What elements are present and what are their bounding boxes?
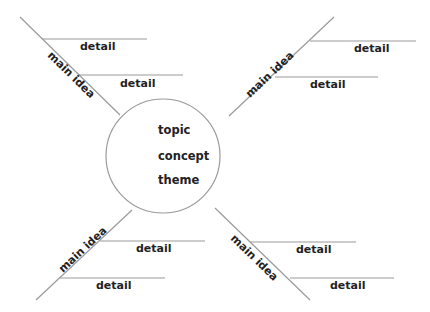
detail-label: detail xyxy=(80,40,116,53)
center-node: topic concept theme xyxy=(106,99,220,213)
detail-label: detail xyxy=(354,42,390,55)
branch-bottom-left: main idea detail detail xyxy=(36,210,205,300)
detail-label: detail xyxy=(310,78,346,91)
detail-label: detail xyxy=(296,243,332,256)
detail-label: detail xyxy=(96,279,132,292)
detail-label: detail xyxy=(120,77,156,90)
center-label-concept: concept xyxy=(158,149,210,163)
main-idea-label: main idea xyxy=(228,232,281,284)
main-idea-label: main idea xyxy=(243,49,296,100)
branch-bottom-right: main idea detail detail xyxy=(215,208,394,300)
spider-map-diagram: main idea detail detail main idea detail… xyxy=(0,0,430,312)
detail-label: detail xyxy=(330,279,366,292)
main-idea-label: main idea xyxy=(56,224,109,275)
center-label-topic: topic xyxy=(158,123,191,137)
branch-top-right: main idea detail detail xyxy=(229,17,416,116)
detail-label: detail xyxy=(136,242,172,255)
center-label-theme: theme xyxy=(158,173,199,187)
